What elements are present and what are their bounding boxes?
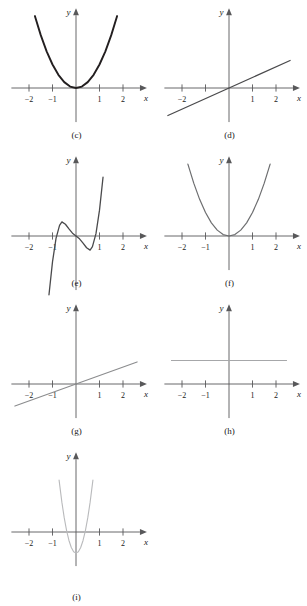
panel-caption-e: (e) [0, 278, 153, 288]
x-tick-label: 2 [274, 243, 278, 252]
panel-caption-h: (h) [153, 426, 306, 436]
graph-panel-h: −2−112xy(h) [153, 296, 306, 444]
y-axis-label: y [219, 303, 224, 313]
coordinate-plane-i: −2−112xy [0, 444, 153, 572]
graph-panel-c: −2−112xy(c) [0, 0, 153, 148]
graph-panel-g: −2−112xy(g) [0, 296, 153, 444]
panel-caption-i: (i) [0, 592, 153, 602]
y-axis-label: y [66, 303, 71, 313]
x-tick-label: −2 [25, 95, 34, 104]
y-axis-arrow-icon [226, 156, 232, 163]
x-axis-arrow-icon [140, 85, 147, 91]
coordinate-plane-d: −212xy [153, 0, 306, 128]
x-axis-label: x [143, 537, 148, 547]
x-tick-label: 2 [121, 391, 125, 400]
x-axis-arrow-icon [140, 381, 147, 387]
x-axis-arrow-icon [140, 233, 147, 239]
x-tick-label: −1 [201, 391, 210, 400]
x-tick-label: −2 [178, 95, 187, 104]
x-axis-arrow-icon [293, 233, 300, 239]
x-axis-arrow-icon [293, 85, 300, 91]
x-tick-label: 1 [98, 391, 102, 400]
y-axis-label: y [66, 7, 71, 17]
x-tick-label: 1 [98, 539, 102, 548]
graph-panel-e: −2−112xy(e) [0, 148, 153, 296]
y-axis-arrow-icon [73, 304, 79, 311]
x-axis-label: x [143, 93, 148, 103]
x-tick-label: 1 [98, 243, 102, 252]
x-axis-arrow-icon [140, 529, 147, 535]
coordinate-plane-h: −2−112xy [153, 296, 306, 424]
x-tick-label: 1 [251, 95, 255, 104]
panel-caption-f: (f) [153, 278, 306, 288]
x-tick-label: −2 [25, 391, 34, 400]
figure-panel-grid: −2−112xy(c)−212xy(d)−2−112xy(e)−2−112xy(… [0, 0, 307, 606]
y-axis-label: y [66, 155, 71, 165]
x-tick-label: −2 [178, 391, 187, 400]
graph-panel-f: −2−112xy(f) [153, 148, 306, 296]
graph-panel-i: −2−112xy(i) [0, 444, 153, 606]
x-tick-label: −2 [25, 243, 34, 252]
coordinate-plane-g: −2−112xy [0, 296, 153, 424]
x-tick-label: 1 [251, 243, 255, 252]
x-tick-label: −1 [48, 95, 57, 104]
y-axis-arrow-icon [73, 156, 79, 163]
x-tick-label: −1 [201, 243, 210, 252]
x-tick-label: −2 [25, 539, 34, 548]
x-tick-label: 2 [121, 539, 125, 548]
y-axis-arrow-icon [73, 452, 79, 459]
x-axis-label: x [296, 389, 301, 399]
x-tick-label: 2 [274, 391, 278, 400]
x-axis-label: x [143, 241, 148, 251]
panel-caption-d: (d) [153, 130, 306, 140]
x-tick-label: 2 [274, 95, 278, 104]
x-axis-label: x [143, 389, 148, 399]
x-tick-label: −2 [178, 243, 187, 252]
x-axis-arrow-icon [293, 381, 300, 387]
coordinate-plane-f: −2−112xy [153, 148, 306, 276]
y-axis-label: y [219, 155, 224, 165]
x-tick-label: 1 [98, 95, 102, 104]
panel-caption-g: (g) [0, 426, 153, 436]
y-axis-arrow-icon [226, 8, 232, 15]
y-axis-label: y [219, 7, 224, 17]
coordinate-plane-c: −2−112xy [0, 0, 153, 128]
graph-panel-d: −212xy(d) [153, 0, 306, 148]
x-tick-label: 2 [121, 95, 125, 104]
y-axis-arrow-icon [226, 304, 232, 311]
x-tick-label: −1 [48, 539, 57, 548]
y-axis-arrow-icon [73, 8, 79, 15]
panel-caption-c: (c) [0, 130, 153, 140]
y-axis-label: y [66, 451, 71, 461]
x-axis-label: x [296, 93, 301, 103]
x-tick-label: 2 [121, 243, 125, 252]
coordinate-plane-e: −2−112xy [0, 148, 153, 276]
x-axis-label: x [296, 241, 301, 251]
x-tick-label: 1 [251, 391, 255, 400]
